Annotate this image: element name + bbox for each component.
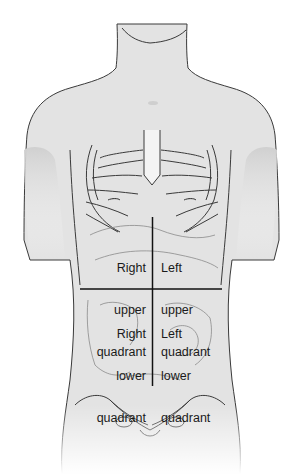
label-line: quadrant: [97, 411, 146, 425]
label-line: Right: [97, 261, 146, 275]
label-line: Left: [161, 261, 210, 275]
torso-illustration: [0, 0, 301, 474]
label-line: lower: [161, 369, 210, 383]
label-line: Left: [161, 327, 210, 341]
label-left-lower-quadrant: Left lower quadrant: [161, 299, 210, 439]
label-line: quadrant: [161, 411, 210, 425]
label-line: lower: [97, 369, 146, 383]
label-right-lower-quadrant: Right lower quadrant: [97, 299, 146, 439]
label-line: Right: [97, 327, 146, 341]
